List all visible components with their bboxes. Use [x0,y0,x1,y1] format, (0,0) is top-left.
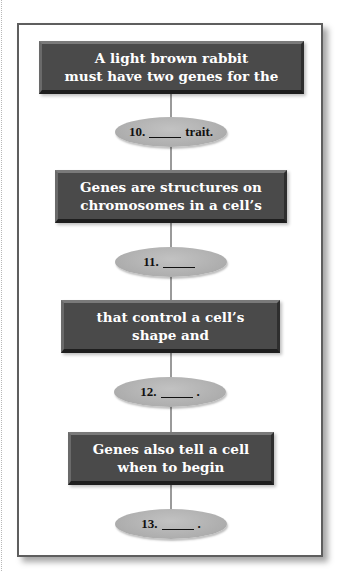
oval-13-suffix: . [198,516,201,532]
answer-oval-12[interactable]: 12. . [114,377,226,407]
box-4-line-2: when to begin [118,458,225,476]
box-4-line-1: Genes also tell a cell [93,440,249,458]
answer-blank-11[interactable] [163,257,195,268]
answer-blank-13[interactable] [162,519,194,530]
oval-10-number: 10. [129,124,145,140]
answer-oval-13[interactable]: 13. . [115,509,227,539]
oval-12-number: 12. [140,384,156,400]
box-2-line-1: Genes are structures on [80,178,262,196]
answer-blank-12[interactable] [161,387,193,398]
page-edge-dotted-line [1,0,2,571]
box-3-line-1: that control a cell’s [97,308,245,326]
flowchart-box-3: that control a cell’s shape and [61,300,280,353]
flowchart-box-2: Genes are structures on chromosomes in a… [55,170,287,223]
oval-13-number: 13. [141,516,157,532]
oval-12-suffix: . [197,384,200,400]
answer-oval-10[interactable]: 10. trait. [115,117,227,147]
box-1-line-1: A light brown rabbit [95,49,248,67]
oval-10-suffix: trait. [185,124,213,140]
box-3-line-2: shape and [132,326,209,344]
box-1-line-2: must have two genes for the [65,67,279,85]
answer-oval-11[interactable]: 11. [115,247,227,277]
flowchart-box-1: A light brown rabbit must have two genes… [39,41,304,94]
oval-11-number: 11. [143,254,159,270]
flowchart-box-4: Genes also tell a cell when to begin [68,432,274,485]
answer-blank-10[interactable] [149,127,181,138]
box-2-line-2: chromosomes in a cell’s [80,196,262,214]
